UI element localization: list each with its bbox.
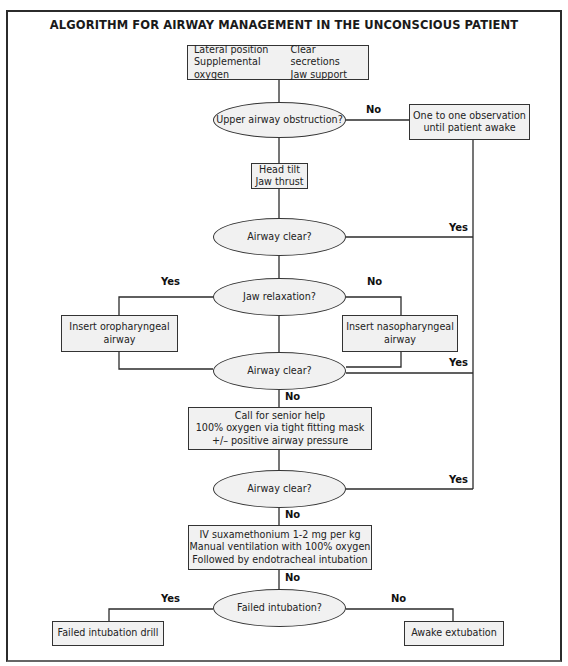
nasopharyngeal-airway-box: Insert nasopharyngeal airway [342, 315, 458, 352]
nasopharyngeal-line-2: airway [384, 334, 416, 347]
failed-drill-label: Failed intubation drill [58, 627, 159, 640]
edge-label-yes-clear-1: Yes [449, 222, 468, 233]
decision-label: Airway clear? [247, 365, 311, 378]
decision-failed-intubation: Failed intubation? [213, 589, 346, 627]
initial-item-jaw-support: Jaw support [291, 69, 362, 82]
head-tilt-line-1: Head tilt [259, 164, 300, 177]
awake-extubation-box: Awake extubation [404, 621, 504, 646]
head-tilt-line-2: Jaw thrust [255, 176, 303, 189]
edge-label-no-failed: No [391, 593, 406, 604]
decision-jaw-relaxation: Jaw relaxation? [213, 278, 346, 316]
edge-label-no-jaw: No [367, 276, 382, 287]
edge-label-no-after-sux: No [285, 572, 300, 583]
nasopharyngeal-line-1: Insert nasopharyngeal [346, 321, 454, 334]
edge-label-no-obstruction: No [366, 104, 381, 115]
edge-label-yes-jaw: Yes [161, 276, 180, 287]
observation-line-2: until patient awake [423, 122, 515, 135]
decision-airway-clear-2: Airway clear? [213, 352, 346, 390]
observation-line-1: One to one observation [413, 110, 526, 123]
suxamethonium-box: IV suxamethonium 1-2 mg per kg Manual ve… [188, 525, 372, 570]
senior-help-box: Call for senior help 100% oxygen via tig… [188, 407, 372, 450]
observation-box: One to one observation until patient awa… [409, 104, 530, 140]
sux-line-1: IV suxamethonium 1-2 mg per kg [199, 529, 360, 542]
senior-help-line-1: Call for senior help [235, 410, 325, 423]
decision-airway-clear-3: Airway clear? [213, 470, 346, 508]
awake-extubation-label: Awake extubation [411, 627, 497, 640]
initial-item-supplemental-oxygen: Supplemental oxygen [194, 56, 291, 81]
senior-help-line-2: 100% oxygen via tight fitting mask [196, 422, 364, 435]
oropharyngeal-line-1: Insert oropharyngeal [69, 321, 169, 334]
edge-label-no-clear-3: No [285, 509, 300, 520]
decision-airway-clear-1: Airway clear? [213, 218, 346, 256]
oropharyngeal-airway-box: Insert oropharyngeal airway [61, 315, 178, 352]
decision-label: Jaw relaxation? [243, 291, 316, 304]
decision-label: Airway clear? [247, 483, 311, 496]
decision-label: Upper airway obstruction? [216, 114, 343, 127]
initial-item-clear-secretions: Clear secretions [291, 44, 362, 69]
decision-label: Airway clear? [247, 231, 311, 244]
initial-item-lateral-position: Lateral position [194, 44, 291, 57]
edge-label-no-clear-2: No [285, 391, 300, 402]
decision-label: Failed intubation? [237, 602, 322, 615]
sux-line-2: Manual ventilation with 100% oxygen [190, 541, 371, 554]
initial-measures-box: Lateral position Supplemental oxygen Cle… [187, 45, 369, 80]
edge-label-yes-clear-3: Yes [449, 474, 468, 485]
head-tilt-box: Head tilt Jaw thrust [251, 163, 308, 189]
senior-help-line-3: +/– positive airway pressure [212, 435, 348, 448]
sux-line-3: Followed by endotracheal intubation [192, 554, 367, 567]
edge-label-yes-clear-2: Yes [449, 357, 468, 368]
oropharyngeal-line-2: airway [104, 334, 136, 347]
failed-intubation-drill-box: Failed intubation drill [52, 621, 164, 646]
edge-label-yes-failed: Yes [161, 593, 180, 604]
decision-upper-airway-obstruction: Upper airway obstruction? [213, 102, 346, 138]
